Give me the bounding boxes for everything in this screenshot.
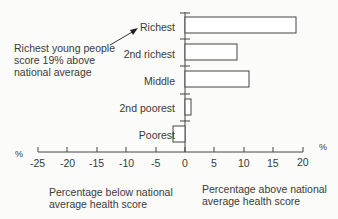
tick-label: -5: [151, 157, 160, 169]
tick-label: -10: [119, 157, 134, 169]
tick-label: 20: [297, 156, 309, 168]
bar-richest: [185, 17, 296, 33]
unit-left: %: [15, 148, 23, 160]
category-label: Poorest: [85, 129, 175, 141]
bar-2nd-poorest: [185, 99, 191, 115]
tick-label: -20: [60, 157, 75, 169]
tick-label: 0: [182, 157, 188, 169]
category-label: Richest: [85, 21, 175, 33]
category-label: 2nd poorest: [85, 102, 175, 114]
x-label-above: Percentage above national average health…: [202, 183, 327, 207]
x-label-below: Percentage below national average health…: [49, 186, 173, 210]
tick-label: 15: [267, 157, 279, 169]
bar-middle: [185, 71, 249, 87]
annotation-text: Richest young people score 19% above nat…: [14, 42, 115, 78]
tick-label: -25: [30, 157, 45, 169]
tick-label: -15: [89, 157, 104, 169]
tick-label: 10: [238, 157, 250, 169]
tick-label: 5: [211, 157, 217, 169]
unit-right: %: [319, 141, 327, 153]
x-axis-ticks: [38, 147, 303, 152]
bar-2nd-richest: [185, 44, 237, 60]
